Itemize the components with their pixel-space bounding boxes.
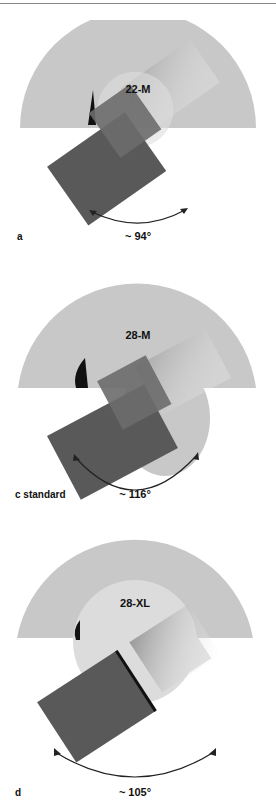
panel-letter: d — [15, 787, 21, 798]
header-rule — [0, 3, 276, 4]
hip-rom-diagram-c: 28-M c standard ~ 116° — [0, 268, 276, 528]
panel-letter: a — [17, 231, 23, 242]
panel-c: 28-M c standard ~ 116° — [0, 268, 276, 528]
rom-angle-label: ~ 105° — [119, 786, 151, 798]
hip-rom-diagram-a: 22-M a ~ 94° — [0, 20, 276, 260]
implant-size-label: 28-M — [125, 329, 150, 341]
panel-d: 28-XL d ~ 105° — [0, 530, 276, 808]
rom-angle-label: ~ 94° — [125, 230, 151, 242]
implant-size-label: 22-M — [125, 83, 150, 95]
hip-rom-diagram-d: 28-XL d ~ 105° — [0, 530, 276, 808]
implant-size-label: 28-XL — [120, 597, 150, 609]
rom-angle-label: ~ 116° — [119, 488, 151, 500]
panel-letter: c standard — [15, 489, 66, 500]
panel-a: 22-M a ~ 94° — [0, 20, 276, 260]
